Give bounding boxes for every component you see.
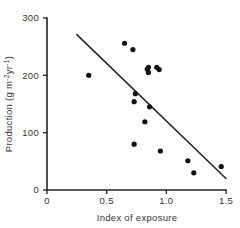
- data-point-3: [133, 91, 138, 96]
- data-point-group: [86, 41, 224, 176]
- data-point-9: [146, 65, 151, 70]
- x-tick-label-3: 1.5: [219, 195, 233, 206]
- data-point-6: [142, 119, 147, 124]
- x-axis-title: Index of exposure: [97, 212, 178, 223]
- x-axis-tick-labels: 00.51.01.5: [44, 195, 233, 206]
- y-tick-label-3: 300: [22, 12, 39, 23]
- scatter-plot-svg: 0100200300 00.51.01.5 Index of exposure …: [0, 0, 240, 228]
- data-point-10: [147, 104, 152, 109]
- y-axis-title: Production (g m-2yr-1): [3, 56, 14, 152]
- data-point-1: [122, 41, 127, 46]
- chart-figure: 0100200300 00.51.01.5 Index of exposure …: [0, 0, 240, 228]
- data-point-4: [132, 99, 137, 104]
- data-point-14: [185, 158, 190, 163]
- data-point-13: [158, 148, 163, 153]
- y-tick-label-1: 100: [22, 127, 39, 138]
- data-point-0: [86, 73, 91, 78]
- data-point-8: [146, 70, 151, 75]
- data-point-12: [157, 67, 162, 72]
- y-axis-tick-labels: 0100200300: [22, 12, 39, 195]
- x-tick-label-1: 0.5: [100, 195, 114, 206]
- y-tick-label-2: 200: [22, 70, 39, 81]
- data-point-2: [130, 47, 135, 52]
- data-point-15: [191, 170, 196, 175]
- x-tick-label-0: 0: [44, 195, 50, 206]
- data-point-5: [132, 142, 137, 147]
- data-point-16: [219, 164, 224, 169]
- x-tick-label-2: 1.0: [159, 195, 173, 206]
- y-tick-label-0: 0: [33, 184, 39, 195]
